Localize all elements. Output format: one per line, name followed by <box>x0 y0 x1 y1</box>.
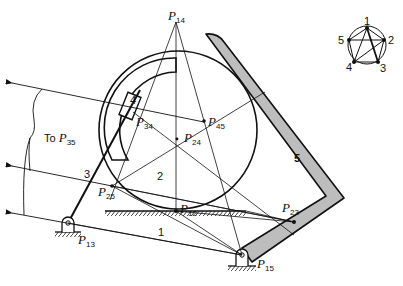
label-p15: P15 <box>256 256 274 273</box>
label-p45: P45 <box>207 114 225 131</box>
svg-text:To P35: To P35 <box>44 130 76 147</box>
label-p12: P12 <box>179 201 197 218</box>
label-to-p35: To P35 <box>44 130 76 147</box>
link-label-1: 1 <box>158 226 164 238</box>
svg-text:4: 4 <box>346 61 352 73</box>
label-p13: P13 <box>77 232 95 249</box>
disk-link-2 <box>99 51 257 209</box>
svg-text:P12: P12 <box>179 201 197 218</box>
svg-text:P14: P14 <box>167 8 185 25</box>
svg-text:3: 3 <box>380 62 386 74</box>
link-label-4: 4 <box>130 94 136 106</box>
svg-text:5: 5 <box>338 34 344 46</box>
link-label-5: 5 <box>294 152 300 164</box>
link-label-2: 2 <box>157 170 163 182</box>
svg-text:P34: P34 <box>135 114 153 131</box>
instant-center-dots <box>110 119 296 224</box>
svg-text:P15: P15 <box>256 256 274 273</box>
crank-link-3 <box>68 90 140 223</box>
linear-graph-diagram: 1 2 3 4 5 <box>338 15 394 74</box>
label-p23: P23 <box>281 200 299 217</box>
svg-text:P13: P13 <box>77 232 95 249</box>
svg-text:P23: P23 <box>281 200 299 217</box>
label-p34: P34 <box>135 114 153 131</box>
construction-lines <box>68 22 294 255</box>
svg-text:2: 2 <box>388 34 394 46</box>
mechanism-diagram: P14 P34 P45 P24 P25 P12 P23 P13 P15 To P… <box>0 0 403 286</box>
svg-text:1: 1 <box>364 15 370 27</box>
link-label-3: 3 <box>84 168 90 180</box>
svg-text:P45: P45 <box>207 114 225 131</box>
label-p14: P14 <box>167 8 185 25</box>
